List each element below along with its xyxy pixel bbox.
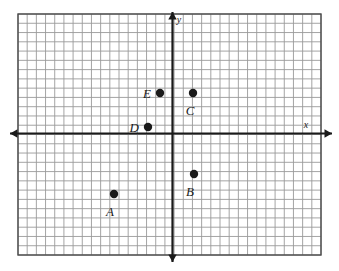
coordinate-plane-svg: x y ABCDE	[0, 0, 339, 271]
point-label-b: B	[186, 184, 194, 199]
point-label-d: D	[129, 120, 140, 135]
point-label-c: C	[186, 103, 195, 118]
figure-background	[0, 0, 339, 271]
coordinate-plane-figure: x y ABCDE	[0, 0, 339, 271]
plotted-point-d	[144, 123, 152, 131]
point-label-e: E	[142, 86, 151, 101]
plotted-point-c	[189, 89, 197, 97]
x-axis-label: x	[303, 119, 309, 130]
y-axis-label: y	[176, 14, 182, 25]
plotted-point-e	[156, 89, 164, 97]
point-label-a: A	[105, 204, 114, 219]
plotted-point-a	[110, 190, 118, 198]
plotted-point-b	[190, 170, 198, 178]
